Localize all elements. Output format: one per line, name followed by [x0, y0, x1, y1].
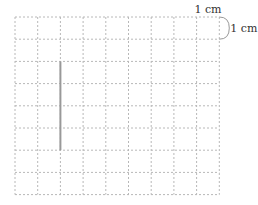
scale-label-vertical: 1 cm: [230, 22, 258, 35]
scale-label-horizontal: 1 cm: [194, 3, 222, 16]
grid-diagram: 1 cm1 cm: [0, 0, 258, 205]
scale-brace: [219, 17, 229, 39]
